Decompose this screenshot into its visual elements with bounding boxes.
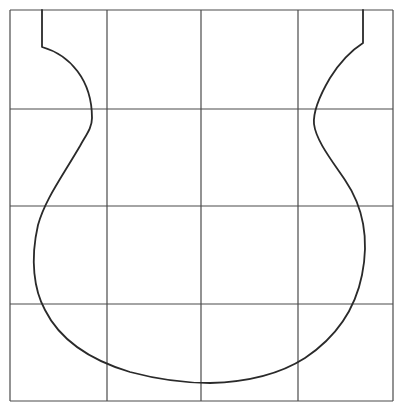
vase-outline [34, 10, 365, 383]
vase-grid-diagram [0, 0, 404, 414]
